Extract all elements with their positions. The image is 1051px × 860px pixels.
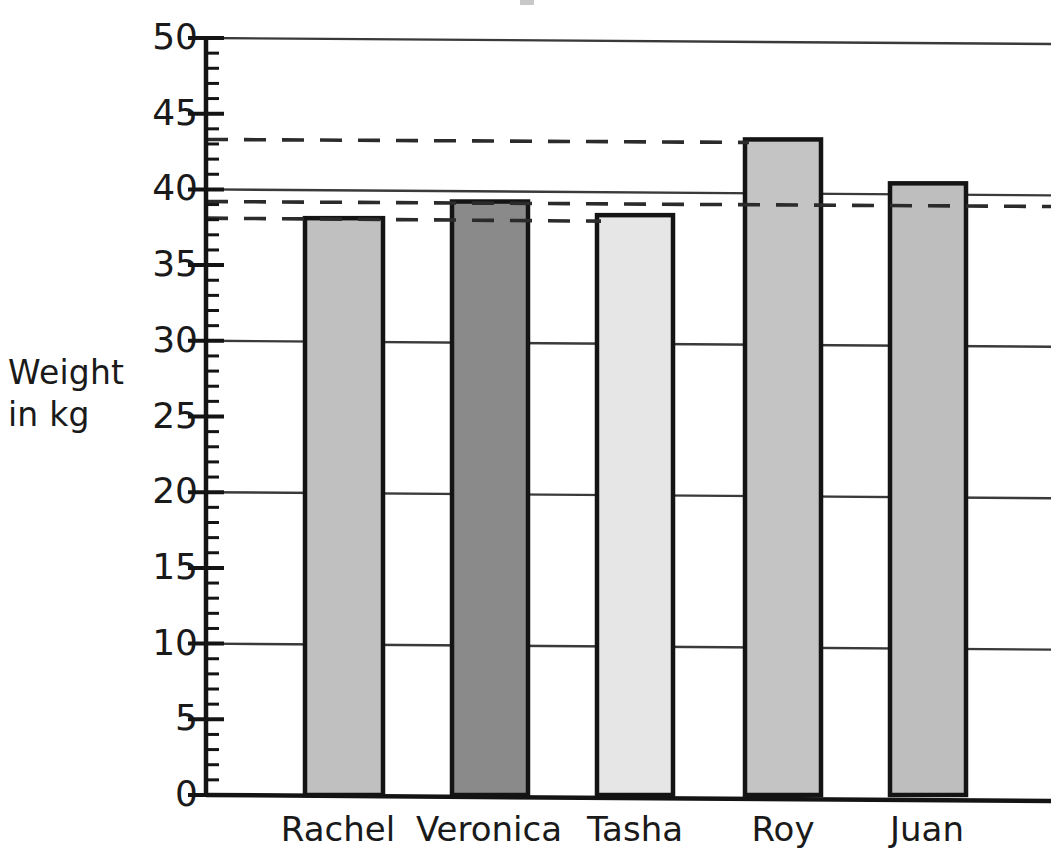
bar-juan <box>890 183 966 795</box>
bar-rect-juan <box>890 183 966 795</box>
bar-rect-rachel <box>305 218 383 795</box>
bar-rachel <box>305 218 383 795</box>
gridline-50 <box>206 38 1051 44</box>
bar-tasha <box>597 215 673 795</box>
dashed-reference-line-43.3 <box>206 139 749 142</box>
bar-chart: Weight in kg 05101520253035404550 Rachel… <box>0 0 1051 860</box>
x-category-label-juan: Juan <box>817 806 1037 852</box>
x-axis-category-labels: RachelVeronicaTashaRoyJuan <box>0 806 1051 860</box>
bar-rect-veronica <box>452 202 528 795</box>
bar-rect-tasha <box>597 215 673 795</box>
bars <box>305 139 966 795</box>
bar-veronica <box>452 202 528 795</box>
plot-area <box>0 0 1051 860</box>
bar-rect-roy <box>745 139 821 795</box>
dashed-reference-line-38.1 <box>206 218 601 221</box>
bar-roy <box>745 139 821 795</box>
